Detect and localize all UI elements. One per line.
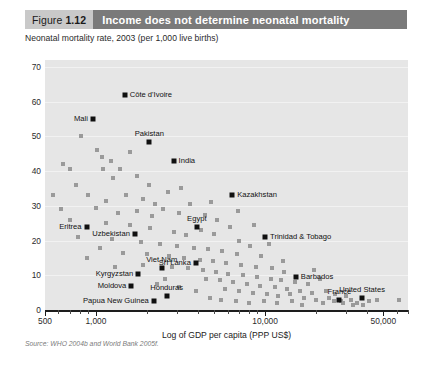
data-point xyxy=(282,270,286,274)
x-axis-tick-label: 10,000 xyxy=(252,316,278,326)
data-point xyxy=(228,225,232,229)
data-point xyxy=(241,273,245,277)
data-point xyxy=(276,294,280,298)
data-point xyxy=(349,298,353,302)
data-point xyxy=(310,291,314,295)
grid-line xyxy=(45,102,408,103)
data-point xyxy=(94,206,98,210)
data-point-label: Eritrea xyxy=(59,222,81,230)
y-axis-labels: 010203040506070 xyxy=(13,60,41,310)
data-point xyxy=(201,268,205,272)
data-point xyxy=(204,277,208,281)
x-axis-tick xyxy=(88,310,89,314)
data-point xyxy=(101,167,105,171)
data-point-label: United States xyxy=(339,285,385,293)
data-point xyxy=(192,246,196,250)
data-point xyxy=(231,280,235,284)
data-point xyxy=(300,303,304,307)
x-axis-tick xyxy=(58,310,59,314)
figure-header: Figure 1.12 Income does not determine ne… xyxy=(25,10,407,29)
data-point xyxy=(355,301,359,305)
x-axis-tick xyxy=(397,310,398,314)
x-axis-tick xyxy=(147,310,148,314)
data-point xyxy=(237,239,241,243)
data-point xyxy=(226,272,230,276)
data-point-highlighted xyxy=(147,139,152,144)
data-point xyxy=(314,298,318,302)
x-axis-line xyxy=(45,310,408,312)
data-point xyxy=(255,275,259,279)
data-point-label: Egypt xyxy=(187,214,206,222)
x-axis-tick xyxy=(316,310,317,314)
x-axis-title: Log of GDP per capita (PPP US$) xyxy=(45,330,408,340)
data-point xyxy=(293,280,297,284)
data-point xyxy=(135,174,139,178)
data-point xyxy=(150,214,154,218)
data-point xyxy=(188,202,192,206)
data-point xyxy=(208,296,212,300)
data-point xyxy=(118,167,122,171)
x-axis-tick xyxy=(198,310,199,314)
data-point xyxy=(158,242,162,246)
figure-page: Figure 1.12 Income does not determine ne… xyxy=(0,0,432,371)
grid-line xyxy=(45,67,408,68)
data-point-label: Pakistan xyxy=(135,129,164,137)
figure-number-tag: Figure 1.12 xyxy=(25,10,93,29)
x-axis-tick xyxy=(80,310,81,314)
data-point-highlighted xyxy=(84,224,89,229)
data-point xyxy=(85,256,89,260)
data-point xyxy=(270,266,274,270)
data-point xyxy=(247,301,251,305)
x-axis-tick xyxy=(408,310,409,314)
data-point xyxy=(104,199,108,203)
grid-line xyxy=(45,206,408,207)
data-point-label: Kyrgyzstan xyxy=(96,269,134,277)
data-point xyxy=(128,223,132,227)
data-point-label: Barbados xyxy=(301,273,334,281)
y-axis-tick-label: 50 xyxy=(17,131,41,141)
data-point xyxy=(341,301,345,305)
data-point-highlighted xyxy=(159,266,164,271)
data-point xyxy=(351,303,355,307)
data-point xyxy=(237,289,241,293)
figure-number-label: 1.12 xyxy=(65,14,86,26)
data-point xyxy=(298,289,302,293)
data-point-label: Uzbekistan xyxy=(92,229,130,237)
data-point xyxy=(124,193,128,197)
data-point xyxy=(59,207,63,211)
x-axis-tick xyxy=(346,310,347,314)
data-point xyxy=(141,197,145,201)
data-point-label: Viet Nam xyxy=(146,256,177,264)
data-point-highlighted xyxy=(136,271,141,276)
data-point xyxy=(147,183,151,187)
data-point xyxy=(262,299,266,303)
data-point-label: Honduras xyxy=(150,284,183,292)
data-point xyxy=(223,287,227,291)
x-axis-tick xyxy=(177,310,178,314)
y-axis-tick-label: 20 xyxy=(17,236,41,246)
data-point xyxy=(111,176,115,180)
data-point xyxy=(51,193,55,197)
data-point xyxy=(135,209,139,213)
grid-line xyxy=(45,171,408,172)
x-axis-tick xyxy=(228,310,229,314)
data-point xyxy=(79,134,83,138)
data-point xyxy=(239,263,243,267)
data-point-highlighted xyxy=(132,231,137,236)
data-point xyxy=(306,282,310,286)
x-axis-tick-label: 50,000 xyxy=(370,316,396,326)
data-point-highlighted xyxy=(360,295,365,300)
data-point xyxy=(95,148,99,152)
data-point xyxy=(199,228,203,232)
figure-title: Income does not determine neonatal morta… xyxy=(93,10,407,29)
data-point-highlighted xyxy=(122,92,127,97)
data-point xyxy=(219,298,223,302)
x-axis-tick xyxy=(214,310,215,314)
data-point xyxy=(215,218,219,222)
data-point xyxy=(332,299,336,303)
data-point-highlighted xyxy=(230,193,235,198)
data-point xyxy=(98,246,102,250)
data-point xyxy=(100,155,104,159)
data-point xyxy=(128,150,132,154)
data-point xyxy=(290,299,294,303)
